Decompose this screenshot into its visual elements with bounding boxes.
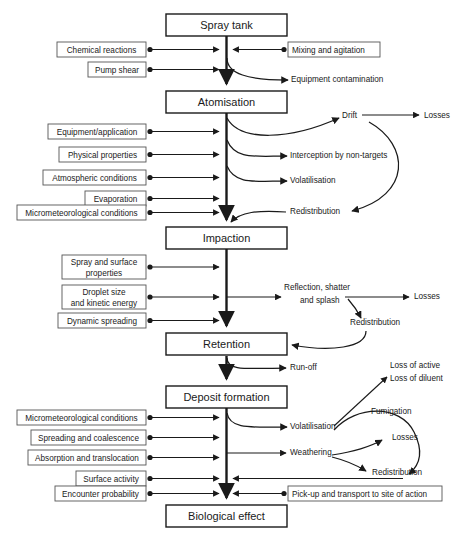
- factor-box-micrometeorological-top[interactable]: Micrometeorological conditions: [17, 205, 146, 220]
- output-label-weathering: Weathering: [290, 448, 332, 457]
- branch-weathering-to-losses: [332, 440, 382, 455]
- output-label-reflection-shatter-2: and splash: [300, 296, 340, 305]
- factor-label: Droplet size: [82, 288, 126, 297]
- factor-box-equipment-application[interactable]: Equipment/application: [48, 124, 146, 139]
- branch-redistribution-to-retention: [292, 331, 366, 348]
- factor-box-surface-activity[interactable]: Surface activity: [76, 471, 146, 486]
- branch-weathering-to-redistribution: [332, 457, 366, 471]
- factor-label: Evaporation: [94, 195, 138, 204]
- stage-label: Biological effect: [188, 510, 265, 522]
- factor-label: Micrometeorological conditions: [25, 209, 137, 218]
- factor-boxes-group: Chemical reactionsPump shearEquipment/ap…: [17, 42, 146, 501]
- output-label-drift: Drift: [342, 111, 358, 120]
- right-box-mixing-and-agitation[interactable]: Mixing and agitation: [288, 42, 380, 57]
- branch-run-off: [227, 358, 286, 369]
- branch-interception: [227, 140, 287, 156]
- output-labels-group: Equipment contaminationDriftLossesInterc…: [284, 75, 450, 477]
- connector-micrometeorological-top: [147, 210, 219, 215]
- factor-label: Pump shear: [95, 66, 139, 75]
- factor-box-pump-shear[interactable]: Pump shear: [88, 62, 146, 77]
- output-label-equipment-contamination: Equipment contamination: [291, 75, 384, 84]
- factor-label: Atmospheric conditions: [52, 174, 137, 183]
- factor-label: Equipment/application: [57, 128, 138, 137]
- factor-box-absorption-and-translocation[interactable]: Absorption and translocation: [28, 450, 146, 465]
- factor-box-spray-and-surface-properties[interactable]: Spray and surfaceproperties: [62, 255, 146, 279]
- flowchart-diagram: Spray tankAtomisationImpactionRetentionD…: [0, 0, 467, 538]
- left-connectors: [147, 47, 219, 496]
- branch-redistribution-to-impaction: [231, 211, 286, 222]
- right-box-label: Mixing and agitation: [292, 46, 365, 55]
- output-label-run-off: Run-off: [290, 363, 317, 372]
- stage-label: Deposit formation: [183, 391, 269, 403]
- connector-absorption-and-translocation: [147, 455, 219, 460]
- connector-chemical-reactions: [147, 47, 219, 52]
- connector-surface-activity: [147, 476, 219, 481]
- stage-label: Retention: [203, 338, 250, 350]
- right-box-label: Pick-up and transport to site of action: [292, 490, 428, 499]
- factor-box-chemical-reactions[interactable]: Chemical reactions: [57, 42, 146, 57]
- factor-box-spreading-and-coalescence[interactable]: Spreading and coalescence: [31, 430, 146, 445]
- output-label-redistribution-deposit: Redistribution: [372, 468, 423, 477]
- output-label-reflection-shatter-1: Reflection, shatter: [284, 283, 350, 292]
- connector-pick-up-transport: [233, 491, 287, 496]
- factor-label: and kinetic energy: [71, 299, 138, 308]
- stage-label: Impaction: [203, 232, 251, 244]
- factor-box-atmospheric-conditions[interactable]: Atmospheric conditions: [43, 170, 146, 185]
- right-boxes-group: Mixing and agitationPick-up and transpor…: [288, 42, 442, 501]
- connector-droplet-size: [147, 294, 219, 299]
- connector-pump-shear: [147, 67, 219, 72]
- stage-box-impaction[interactable]: Impaction: [166, 227, 287, 249]
- factor-label: Dynamic spreading: [67, 317, 138, 326]
- output-label-volatilisation-deposit: Volatilisation: [290, 422, 336, 431]
- output-label-losses-impaction: Losses: [414, 292, 440, 301]
- factor-label: Absorption and translocation: [35, 454, 139, 463]
- factor-label: Spray and surface: [71, 258, 138, 267]
- connector-spray-and-surface-properties: [147, 264, 219, 269]
- output-label-volatilisation-atom: Volatilisation: [290, 176, 336, 185]
- connector-atmospheric-conditions: [147, 175, 219, 180]
- stage-label: Atomisation: [198, 96, 255, 108]
- connector-mixing-and-agitation: [233, 47, 287, 52]
- stage-label: Spray tank: [200, 19, 253, 31]
- factor-label: Spreading and coalescence: [38, 434, 139, 443]
- stage-box-retention[interactable]: Retention: [166, 333, 287, 355]
- branch-losses-to-redistribution-atom: [352, 122, 399, 211]
- branch-volatilisation-to-loss: [334, 377, 387, 426]
- connector-equipment-application: [147, 129, 219, 134]
- output-label-fumigation: Fumigation: [371, 407, 412, 416]
- output-label-redistribution-atom: Redistribution: [290, 207, 341, 216]
- branch-reflection-to-redistribution: [348, 299, 361, 318]
- output-label-losses-drift: Losses: [424, 111, 450, 120]
- branch-volatilisation-atom: [227, 166, 287, 181]
- factor-box-encounter-probability[interactable]: Encounter probability: [55, 486, 146, 501]
- connector-spreading-and-coalescence: [147, 435, 219, 440]
- factor-label: Encounter probability: [62, 490, 140, 499]
- output-label-losses-weathering: Losses: [392, 433, 418, 442]
- connector-dynamic-spreading: [147, 318, 219, 323]
- factor-label: Micrometeorological conditions: [25, 414, 137, 423]
- factor-label: Physical properties: [68, 151, 137, 160]
- factor-box-physical-properties[interactable]: Physical properties: [59, 147, 146, 162]
- output-label-interception: Interception by non-targets: [290, 151, 387, 160]
- stage-box-biological-effect[interactable]: Biological effect: [166, 505, 287, 527]
- branch-drift: [227, 118, 339, 135]
- output-label-loss-of-active: Loss of active: [390, 361, 441, 370]
- connector-encounter-probability: [147, 491, 219, 496]
- connector-physical-properties: [147, 152, 219, 157]
- branch-volatilisation-deposit: [227, 413, 287, 427]
- factor-box-droplet-size-kinetic-energy[interactable]: Droplet sizeand kinetic energy: [62, 285, 146, 309]
- factor-box-dynamic-spreading[interactable]: Dynamic spreading: [58, 313, 146, 328]
- connector-evaporation: [147, 196, 219, 201]
- factor-box-evaporation[interactable]: Evaporation: [85, 191, 146, 206]
- flowchart-svg: Spray tankAtomisationImpactionRetentionD…: [0, 0, 467, 538]
- right-box-pick-up-and-transport[interactable]: Pick-up and transport to site of action: [288, 486, 442, 501]
- stage-box-deposit-formation[interactable]: Deposit formation: [166, 386, 287, 408]
- factor-label: Surface activity: [83, 475, 139, 484]
- stage-box-spray-tank[interactable]: Spray tank: [166, 14, 287, 36]
- output-label-loss-of-diluent: Loss of diluent: [390, 374, 444, 383]
- stage-box-atomisation[interactable]: Atomisation: [166, 91, 287, 113]
- branch-equipment-contamination: [227, 58, 288, 80]
- factor-box-micrometeorological-bottom[interactable]: Micrometeorological conditions: [17, 410, 146, 425]
- factor-label: Chemical reactions: [67, 46, 137, 55]
- factor-label: properties: [86, 269, 122, 278]
